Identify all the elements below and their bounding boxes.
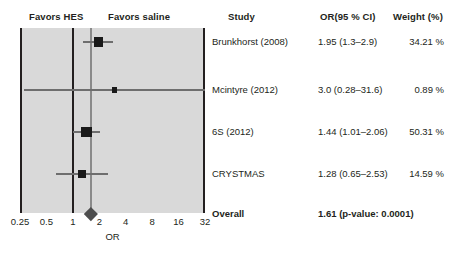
table-cell-study: CRYSTMAS xyxy=(212,168,265,179)
table-cell-study: Brunkhorst (2008) xyxy=(212,36,288,47)
table-cell-weight: 14.59 % xyxy=(409,168,444,179)
axis-left-edge xyxy=(20,28,22,213)
table-cell-weight: 34.21 % xyxy=(409,36,444,47)
x-axis-ticks: 0.250.512481632 xyxy=(20,216,205,230)
effect-size-marker xyxy=(94,37,104,47)
effect-size-marker xyxy=(78,170,86,178)
table-cell-study-overall: Overall xyxy=(212,208,244,219)
study-column-header: Study xyxy=(228,11,255,22)
effect-size-marker xyxy=(81,127,92,138)
x-tick-label: 16 xyxy=(173,216,184,227)
weight-column-header: Weight (%) xyxy=(393,11,443,22)
table-cell-weight: 50.31 % xyxy=(409,126,444,137)
forest-plot-figure: Favors HES Favors saline Study OR(95 % C… xyxy=(0,0,452,259)
x-tick-label: 2 xyxy=(97,216,102,227)
x-axis-title: OR xyxy=(20,231,205,242)
table-cell-or-ci: 3.0 (0.28–31.6) xyxy=(318,84,382,95)
table-cell-or-ci: 1.44 (1.01–2.06) xyxy=(318,126,388,137)
axis-right-edge xyxy=(203,28,205,213)
x-tick-label: 0.5 xyxy=(40,216,53,227)
or-ci-column-header: OR(95 % CI) xyxy=(320,11,375,22)
effect-size-marker xyxy=(112,87,117,92)
table-cell-or-ci-overall: 1.61 (p-value: 0.0001) xyxy=(318,208,414,219)
table-cell-weight: 0.89 % xyxy=(414,84,444,95)
x-tick-label: 32 xyxy=(200,216,211,227)
table-cell-or-ci: 1.28 (0.65–2.53) xyxy=(318,168,388,179)
x-tick-label: 1 xyxy=(70,216,75,227)
plot-area xyxy=(20,28,205,213)
favors-right-header: Favors saline xyxy=(108,11,170,22)
null-effect-line xyxy=(72,28,74,213)
table-cell-study: 6S (2012) xyxy=(212,126,254,137)
x-tick-label: 4 xyxy=(123,216,128,227)
x-tick-label: 0.25 xyxy=(11,216,30,227)
x-tick-label: 8 xyxy=(149,216,154,227)
pooled-effect-line xyxy=(90,28,91,213)
table-cell-or-ci: 1.95 (1.3–2.9) xyxy=(318,36,377,47)
table-cell-study: Mcintyre (2012) xyxy=(212,84,278,95)
favors-left-header: Favors HES xyxy=(29,11,83,22)
